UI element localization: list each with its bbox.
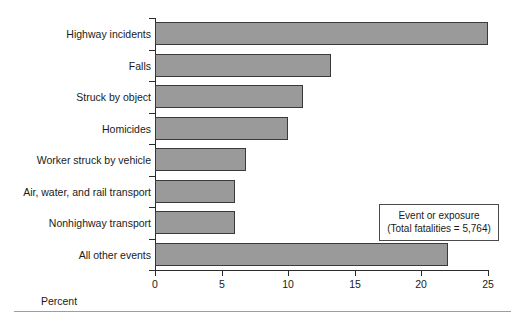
bottom-divider	[14, 311, 511, 312]
x-axis-tick-label: 0	[152, 278, 158, 290]
category-label: Air, water, and rail transport	[0, 186, 151, 198]
x-axis-tick	[488, 271, 489, 276]
bar	[155, 211, 235, 234]
category-label: Highway incidents	[0, 28, 151, 40]
y-axis-tick	[149, 176, 155, 177]
x-axis-title-text: Percent	[41, 295, 77, 307]
legend-line-1: Event or exposure	[382, 209, 496, 222]
y-axis-tick	[149, 81, 155, 82]
bar-chart-figure: Highway incidentsFallsStruck by objectHo…	[0, 0, 526, 323]
category-label: Falls	[0, 60, 151, 72]
bar	[155, 54, 331, 77]
y-axis-tick	[149, 144, 155, 145]
x-axis-title: Percent	[0, 295, 526, 307]
x-axis-tick	[222, 271, 223, 276]
legend-line-2: (Total fatalities = 5,764)	[382, 222, 496, 235]
y-axis-tick	[149, 207, 155, 208]
y-axis-tick	[149, 50, 155, 51]
category-label: Struck by object	[0, 91, 151, 103]
x-axis-tick-label: 20	[415, 278, 427, 290]
bar	[155, 85, 303, 108]
x-axis-tick	[355, 271, 356, 276]
bar	[155, 22, 488, 45]
x-axis-tick-label: 25	[482, 278, 494, 290]
category-label: Worker struck by vehicle	[0, 154, 151, 166]
y-axis-tick	[149, 18, 155, 19]
x-axis-tick-label: 10	[282, 278, 294, 290]
y-axis-tick	[149, 239, 155, 240]
category-label: All other events	[0, 249, 151, 261]
y-axis-tick	[149, 113, 155, 114]
legend-box: Event or exposure (Total fatalities = 5,…	[379, 204, 499, 241]
x-axis-tick	[155, 271, 156, 276]
category-label: Homicides	[0, 123, 151, 135]
bar	[155, 243, 448, 266]
x-axis-tick-label: 5	[219, 278, 225, 290]
bar	[155, 180, 235, 203]
bar	[155, 148, 246, 171]
x-axis-tick	[421, 271, 422, 276]
x-axis-tick	[288, 271, 289, 276]
bar	[155, 117, 288, 140]
category-label: Nonhighway transport	[0, 217, 151, 229]
x-axis-tick-label: 15	[349, 278, 361, 290]
x-axis-line	[155, 270, 489, 271]
